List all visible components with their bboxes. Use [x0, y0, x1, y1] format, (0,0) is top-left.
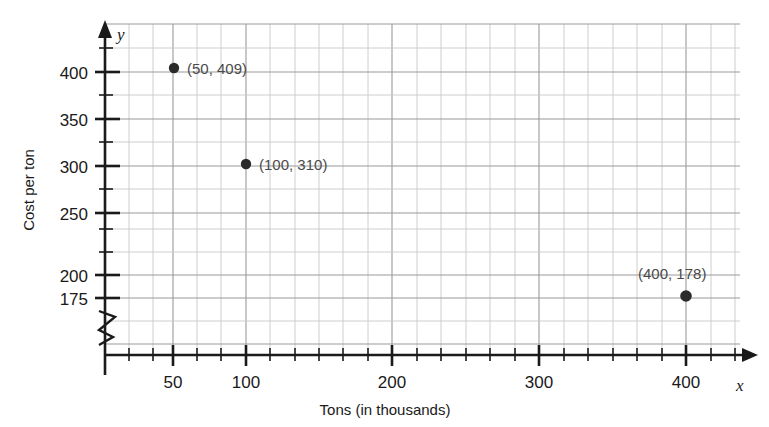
y-axis-name: y	[115, 25, 125, 44]
y-axis-major-ticks	[95, 72, 120, 298]
y-tick-label-300: 300	[60, 158, 88, 177]
y-tick-label-250: 250	[60, 205, 88, 224]
data-point-marker[interactable]	[680, 290, 692, 302]
y-tick-label-200: 200	[60, 267, 88, 286]
y-axis-title: Cost per ton	[20, 149, 37, 231]
data-point-group-0[interactable]: (50, 409)	[169, 60, 247, 77]
y-tick-label-350: 350	[60, 111, 88, 130]
x-tick-label-200: 200	[378, 373, 406, 392]
x-axis-arrowhead	[742, 348, 758, 362]
x-tick-label-100: 100	[232, 373, 260, 392]
x-tick-label-400: 400	[672, 373, 700, 392]
y-tick-label-175: 175	[60, 290, 88, 309]
y-axis-arrowhead	[98, 20, 112, 38]
x-tick-label-50: 50	[164, 373, 183, 392]
data-point-marker[interactable]	[169, 63, 179, 73]
x-axis-name: x	[735, 376, 744, 395]
x-axis-title: Tons (in thousands)	[320, 401, 451, 418]
data-point-label: (50, 409)	[187, 60, 247, 77]
data-point-label: (400, 178)	[638, 265, 706, 282]
data-point-group-2[interactable]: (400, 178)	[638, 265, 706, 302]
chart-canvas: 50 100 200 300 400 400 350 300 250 200 1…	[0, 0, 769, 427]
y-axis-break-icon	[99, 311, 115, 345]
x-tick-label-300: 300	[525, 373, 553, 392]
data-point-label: (100, 310)	[259, 156, 327, 173]
y-tick-label-400: 400	[60, 64, 88, 83]
data-point-group-1[interactable]: (100, 310)	[241, 156, 328, 173]
data-point-marker[interactable]	[241, 159, 251, 169]
scatter-plot-figure: 50 100 200 300 400 400 350 300 250 200 1…	[0, 0, 769, 427]
